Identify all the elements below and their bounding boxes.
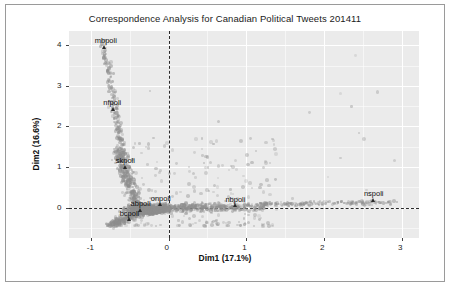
data-point xyxy=(238,209,241,212)
data-point xyxy=(327,176,329,178)
data-point xyxy=(244,213,246,215)
data-point xyxy=(343,202,345,204)
plot-panel: mbpolinfpoliskpolionpoliabpolibcpolinbpo… xyxy=(69,31,419,238)
data-point xyxy=(273,143,276,146)
data-point xyxy=(247,214,250,217)
data-point xyxy=(340,200,343,203)
labeled-point-marker xyxy=(233,203,237,207)
data-point xyxy=(120,147,122,149)
data-point xyxy=(207,166,209,168)
data-point xyxy=(385,202,387,204)
data-point xyxy=(393,159,396,162)
data-point xyxy=(396,201,398,203)
data-point xyxy=(264,161,268,165)
data-point xyxy=(262,205,265,208)
x-tick-label: 3 xyxy=(398,243,402,252)
data-point xyxy=(121,133,124,136)
data-point xyxy=(114,91,116,93)
data-point xyxy=(266,202,269,205)
data-point xyxy=(217,120,220,123)
x-tick-mark xyxy=(402,238,403,241)
data-point xyxy=(146,163,149,166)
labeled-point-marker xyxy=(123,165,127,169)
data-point xyxy=(133,182,136,185)
data-point xyxy=(203,162,205,164)
point-label-nfpoli: nfpoli xyxy=(103,98,121,107)
data-point xyxy=(137,192,140,195)
data-point xyxy=(116,108,118,110)
data-point xyxy=(119,121,123,125)
data-point xyxy=(159,169,162,172)
data-point xyxy=(114,129,118,133)
data-point xyxy=(183,215,186,218)
data-point xyxy=(125,191,128,194)
data-point xyxy=(248,210,251,213)
data-point xyxy=(175,162,178,165)
x-axis-label: Dim1 (17.1%) xyxy=(6,253,444,263)
data-point xyxy=(133,224,136,227)
x-tick-mark xyxy=(169,238,170,241)
data-point xyxy=(150,224,153,227)
data-point xyxy=(155,225,157,227)
data-point xyxy=(156,161,158,163)
data-point xyxy=(244,179,248,183)
data-point xyxy=(134,142,137,145)
data-point xyxy=(193,189,197,193)
data-point xyxy=(140,222,142,224)
data-point xyxy=(274,178,277,181)
data-point xyxy=(255,203,258,206)
data-point xyxy=(138,142,141,145)
data-point xyxy=(264,141,267,144)
data-point xyxy=(186,194,190,198)
labeled-point-marker xyxy=(102,45,106,49)
labeled-point-marker xyxy=(111,107,115,111)
data-point xyxy=(269,162,271,164)
data-point xyxy=(208,190,210,192)
data-point xyxy=(274,152,278,156)
data-point xyxy=(113,117,115,119)
data-point xyxy=(246,163,250,167)
data-point xyxy=(142,183,145,186)
labeled-point-marker xyxy=(127,217,131,221)
data-point xyxy=(247,221,250,224)
data-point xyxy=(249,137,252,140)
data-point xyxy=(193,201,197,205)
point-label-nbpoli: nbpoli xyxy=(225,195,245,204)
data-point xyxy=(243,217,245,219)
data-point xyxy=(217,213,221,217)
data-point xyxy=(133,194,136,197)
data-point xyxy=(132,146,136,150)
x-tick-label: 1 xyxy=(242,243,246,252)
data-point xyxy=(354,54,357,57)
gridline-horizontal xyxy=(69,45,419,46)
x-tick-label: 0 xyxy=(165,243,169,252)
data-point xyxy=(209,161,212,164)
data-point xyxy=(250,161,254,165)
data-point xyxy=(358,132,360,134)
data-point xyxy=(189,224,193,228)
data-point xyxy=(138,187,142,191)
data-point xyxy=(273,147,277,151)
data-point xyxy=(206,155,209,158)
data-point xyxy=(201,154,204,157)
data-point xyxy=(143,224,147,228)
data-point xyxy=(241,185,245,189)
data-point xyxy=(152,137,155,140)
data-point xyxy=(234,159,237,162)
data-point xyxy=(127,185,131,189)
data-point xyxy=(112,72,115,75)
data-point xyxy=(193,151,196,154)
data-point xyxy=(192,172,195,175)
chart-title: Correspondence Analysis for Canadian Pol… xyxy=(6,13,444,24)
data-point xyxy=(355,201,357,203)
data-point xyxy=(163,144,166,147)
data-point xyxy=(192,185,196,189)
data-point xyxy=(216,222,220,226)
y-tick-label: 3 xyxy=(57,81,61,90)
data-point xyxy=(265,178,269,182)
data-point xyxy=(108,79,111,82)
data-point xyxy=(140,152,143,155)
data-point xyxy=(362,137,366,141)
data-point xyxy=(261,209,264,212)
data-point xyxy=(212,143,214,145)
